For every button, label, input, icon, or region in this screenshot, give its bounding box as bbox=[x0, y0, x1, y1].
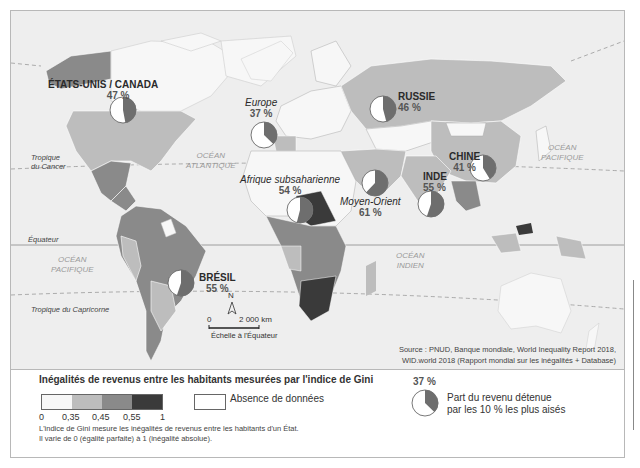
ocean-pacifique-east-label: OCÉANPACIFIQUE bbox=[541, 143, 584, 163]
region-label-usa-canada: ÉTATS-UNIS / CANADA47 % bbox=[48, 79, 158, 101]
pie-inde bbox=[418, 191, 444, 217]
scale-distance: 2 000 km bbox=[239, 315, 272, 324]
tick-1: 1 bbox=[160, 412, 165, 422]
gini-note: L'indice de Gini mesure les inégalités d… bbox=[39, 424, 299, 444]
region-label-russie: RUSSIE46 % bbox=[398, 91, 435, 113]
pie-europe bbox=[251, 122, 277, 148]
no-data-swatch bbox=[194, 394, 226, 410]
scale-zero: 0 bbox=[207, 315, 211, 324]
tick-035: 0,35 bbox=[62, 412, 80, 422]
swatch-0-035 bbox=[42, 395, 72, 409]
region-label-moyen-orient: Moyen-Orient61 % bbox=[340, 196, 401, 218]
swatch-055-1 bbox=[132, 395, 162, 409]
pie-russie bbox=[370, 96, 396, 122]
tick-055: 0,55 bbox=[123, 412, 141, 422]
tropic-cancer-label: Tropiquedu Cancer bbox=[31, 153, 66, 171]
no-data-label: Absence de données bbox=[230, 393, 324, 404]
scale-note: Échelle à l'Équateur bbox=[211, 331, 277, 340]
swatch-035-045 bbox=[72, 395, 102, 409]
region-label-europe: Europe37 % bbox=[245, 97, 277, 119]
equator-label: Équateur bbox=[28, 235, 58, 244]
ocean-atlantique-label: OCÉANATLANTIQUE bbox=[186, 151, 236, 171]
swatch-045-055 bbox=[102, 395, 132, 409]
ocean-pacifique-west-label: OCÉANPACIFIQUE bbox=[51, 255, 94, 275]
pie-legend-caption: Part du revenu détenuepar les 10 % les p… bbox=[447, 392, 565, 416]
pie-legend-icon bbox=[410, 388, 440, 418]
tick-0: 0 bbox=[39, 412, 44, 422]
compass-north-arrow bbox=[228, 302, 236, 314]
legend: Inégalités de revenus entre les habitant… bbox=[11, 370, 624, 457]
map-figure: OCÉANATLANTIQUE OCÉANPACIFIQUE OCÉANPACI… bbox=[10, 10, 625, 458]
source-note: Source : PNUD, Banque mondiale, World In… bbox=[399, 344, 616, 366]
legend-title: Inégalités de revenus entre les habitant… bbox=[39, 374, 373, 385]
tropic-capricorne-label: Tropique du Capricorne bbox=[31, 305, 109, 314]
pie-legend-value: 37 % bbox=[413, 376, 436, 387]
scale-bar bbox=[209, 325, 259, 329]
world-map: OCÉANATLANTIQUE OCÉANPACIFIQUE OCÉANPACI… bbox=[11, 11, 624, 370]
pie-moyen-orient bbox=[362, 170, 388, 196]
page-edge bbox=[633, 280, 634, 430]
compass-label: N bbox=[228, 291, 234, 300]
pie-bresil bbox=[168, 270, 194, 296]
region-label-chine: CHINE41 % bbox=[449, 151, 480, 173]
ocean-indien-label: OCÉANINDIEN bbox=[396, 251, 424, 271]
region-label-afrique: Afrique subsaharienne54 % bbox=[240, 174, 340, 196]
pie-afrique bbox=[287, 197, 313, 223]
gini-color-scale bbox=[41, 394, 163, 410]
region-label-inde: INDE55 % bbox=[423, 171, 447, 193]
tick-045: 0,45 bbox=[92, 412, 110, 422]
